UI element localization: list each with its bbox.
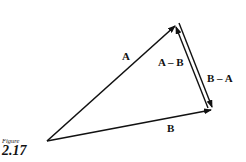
label-a-minus-b: A – B [158, 56, 184, 68]
vector-a-arrow [47, 26, 175, 141]
label-a: A [122, 50, 130, 62]
figure-number: 2.17 [2, 143, 27, 159]
vector-b-arrow [47, 110, 211, 141]
label-b-minus-a: B – A [207, 72, 233, 84]
label-b: B [167, 122, 174, 134]
